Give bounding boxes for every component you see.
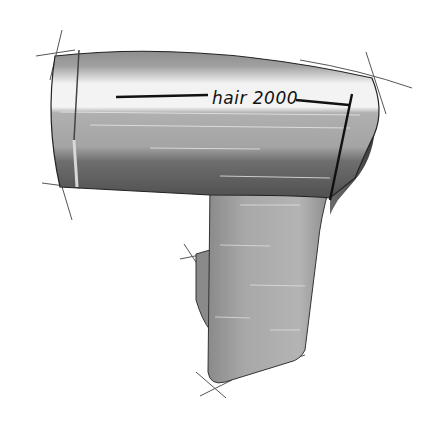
hair-dryer-sketch: hair 2000 — [0, 0, 440, 423]
brand-label: hair 2000 — [212, 88, 298, 108]
trigger-panel — [196, 250, 210, 330]
handle — [208, 185, 330, 383]
